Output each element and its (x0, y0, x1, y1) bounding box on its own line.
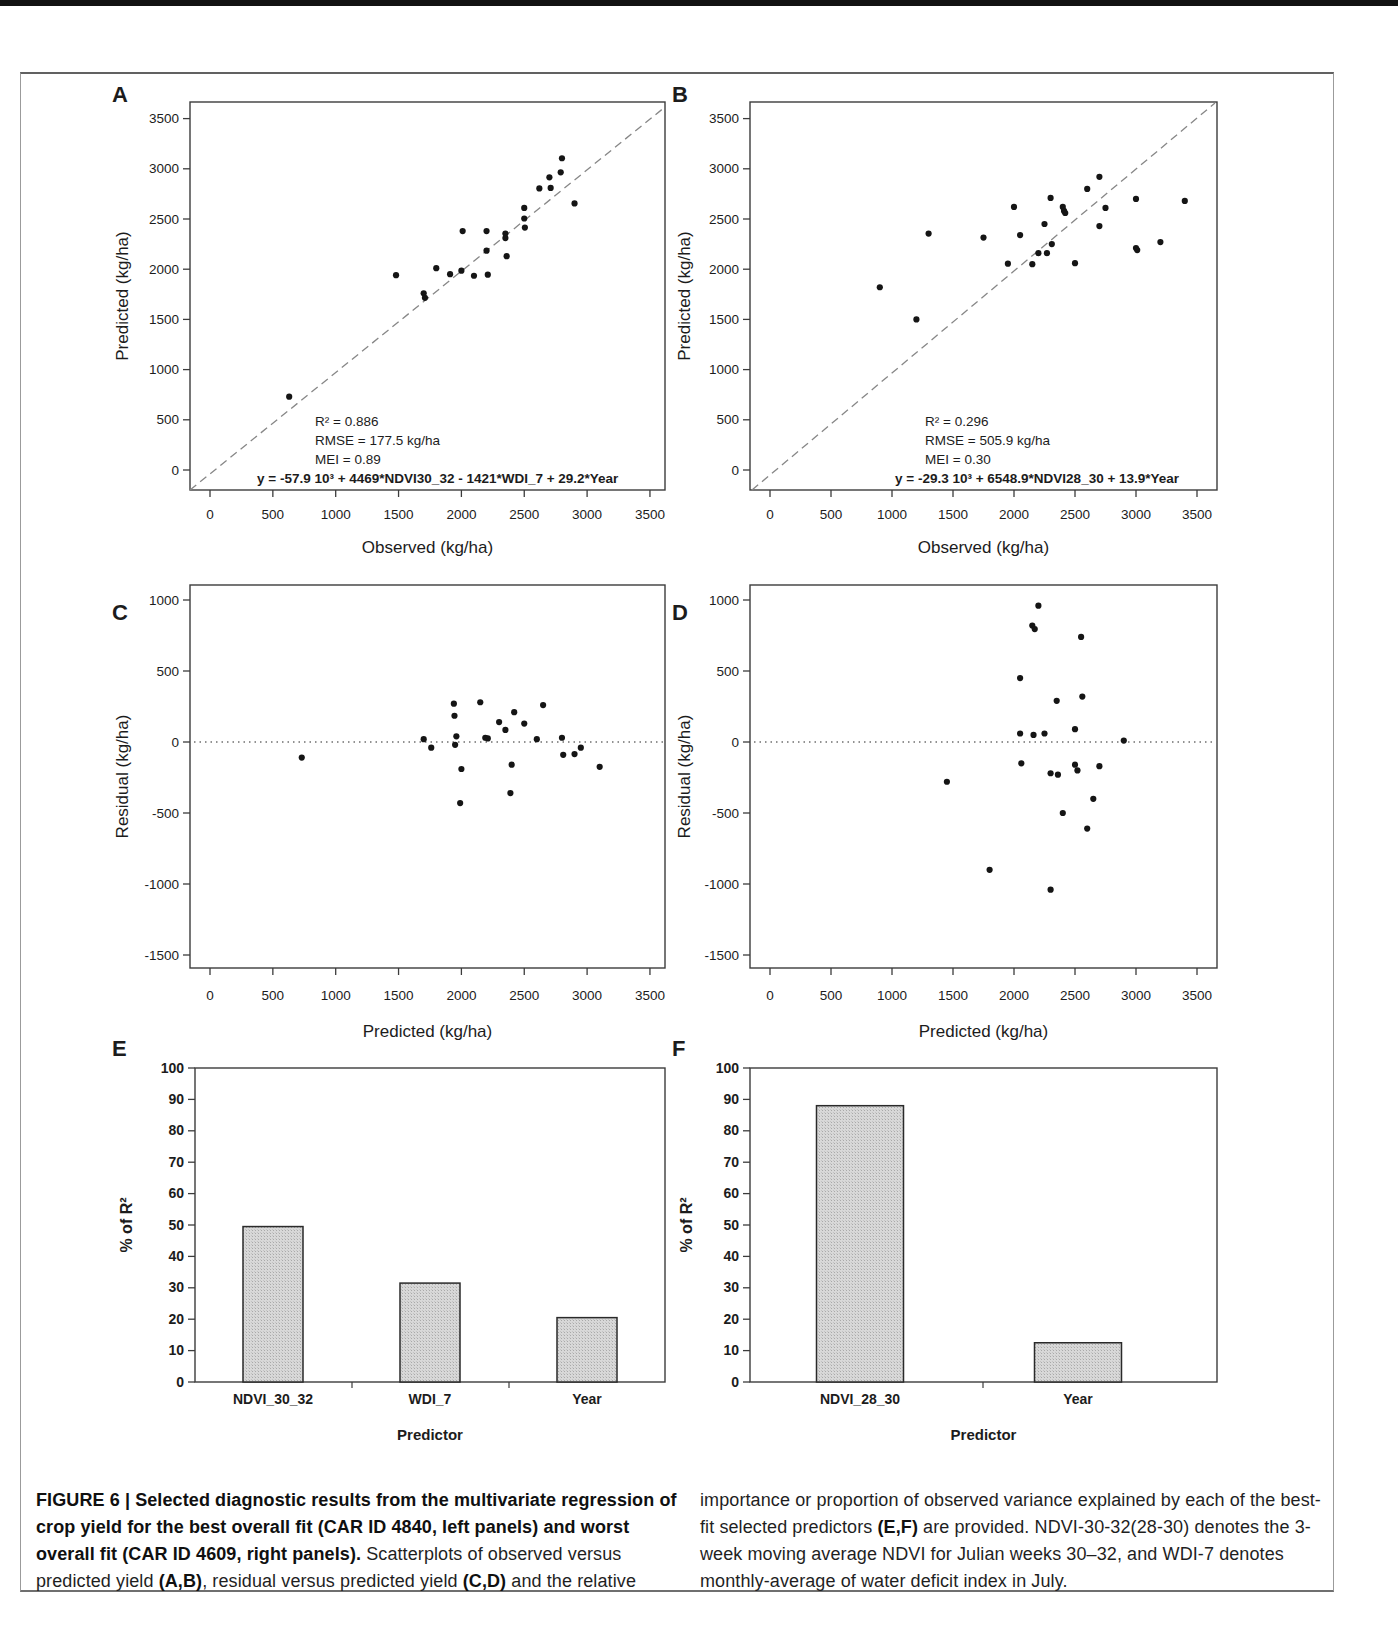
caption-bold-segment: (A,B) (159, 1571, 203, 1591)
data-point (1060, 810, 1066, 816)
data-point (1072, 726, 1078, 732)
y-axis-title: Residual (kg/ha) (675, 715, 694, 839)
x-tick-label: 3000 (572, 988, 602, 1003)
y-axis-title: % of R² (118, 1197, 135, 1252)
x-tick-label: 0 (206, 507, 214, 522)
data-point (457, 800, 463, 806)
caption-bold-segment: (E,F) (877, 1517, 918, 1537)
stat-annotation: R² = 0.296 (925, 414, 988, 429)
data-point (1030, 732, 1036, 738)
data-point (1096, 763, 1102, 769)
y-tick-label: 3000 (149, 161, 179, 176)
data-point (560, 752, 566, 758)
y-axis-title: Predicted (kg/ha) (113, 231, 132, 360)
x-tick-label: 1000 (877, 507, 907, 522)
data-point (496, 719, 502, 725)
x-axis-title: Predictor (397, 1426, 463, 1443)
data-point (1005, 261, 1011, 267)
x-tick-label: 0 (766, 988, 774, 1003)
data-point (1055, 772, 1061, 778)
data-point (1079, 693, 1085, 699)
data-point (1041, 730, 1047, 736)
data-point (1096, 174, 1102, 180)
data-point (1029, 261, 1035, 267)
data-point (1102, 205, 1108, 211)
data-point (1048, 887, 1054, 893)
y-tick-label: 0 (171, 463, 179, 478)
caption-bold-segment: (C,D) (463, 1571, 507, 1591)
data-point (1074, 767, 1080, 773)
data-point (571, 200, 577, 206)
data-point (393, 272, 399, 278)
data-point (1018, 760, 1024, 766)
regression-equation: y = -29.3 10³ + 6548.9*NDVI28_30 + 13.9*… (895, 471, 1180, 486)
data-point (485, 272, 491, 278)
y-tick-label: 80 (168, 1122, 184, 1138)
x-tick-label: 1500 (938, 988, 968, 1003)
data-point (286, 394, 292, 400)
data-point (536, 185, 542, 191)
y-tick-label: 0 (731, 735, 739, 750)
stat-annotation: RMSE = 505.9 kg/ha (925, 433, 1050, 448)
data-point (1084, 186, 1090, 192)
y-tick-label: 2000 (149, 262, 179, 277)
data-point (1017, 730, 1023, 736)
data-point (1072, 260, 1078, 266)
data-point (1084, 826, 1090, 832)
data-point (471, 273, 477, 279)
y-tick-label: 90 (723, 1091, 739, 1107)
x-tick-label: 3000 (572, 507, 602, 522)
x-tick-label: 2000 (446, 507, 476, 522)
data-point (534, 736, 540, 742)
data-point (433, 265, 439, 271)
data-point (1090, 796, 1096, 802)
x-tick-label: 500 (262, 988, 285, 1003)
x-tick-label: 2000 (446, 988, 476, 1003)
y-tick-label: 0 (731, 1374, 739, 1390)
y-tick-label: 80 (723, 1122, 739, 1138)
y-tick-label: 50 (168, 1217, 184, 1233)
regression-equation: y = -57.9 10³ + 4469*NDVI30_32 - 1421*WD… (257, 471, 619, 486)
y-tick-label: 70 (168, 1154, 184, 1170)
data-point (980, 234, 986, 240)
x-tick-label: 1000 (877, 988, 907, 1003)
data-point (521, 205, 527, 211)
data-point (521, 720, 527, 726)
data-point (521, 215, 527, 221)
y-tick-label: 3500 (709, 111, 739, 126)
data-point (452, 742, 458, 748)
data-point (422, 295, 428, 301)
x-tick-label: 1500 (938, 507, 968, 522)
bar (557, 1318, 617, 1382)
panel-letter: A (112, 82, 128, 107)
x-tick-label: 2500 (509, 988, 539, 1003)
data-point (1017, 675, 1023, 681)
panel-a-scatter-plot: A0500100015002000250030003500Predicted (… (112, 82, 665, 557)
y-tick-label: 500 (156, 412, 179, 427)
data-point (451, 713, 457, 719)
y-tick-label: 40 (723, 1248, 739, 1264)
data-point (1048, 770, 1054, 776)
x-tick-label: 1500 (384, 507, 414, 522)
x-tick-label: 3000 (1121, 507, 1151, 522)
data-point (1134, 247, 1140, 253)
y-tick-label: 0 (176, 1374, 184, 1390)
data-point (1035, 250, 1041, 256)
y-tick-label: 3000 (709, 161, 739, 176)
y-tick-label: 2000 (709, 262, 739, 277)
x-tick-label: 1500 (384, 988, 414, 1003)
panel-e-bar-chart: E0102030405060708090100% of R²NDVI_30_32… (112, 1036, 665, 1443)
category-label: NDVI_28_30 (820, 1391, 900, 1407)
y-tick-label: 500 (716, 412, 739, 427)
data-point (546, 174, 552, 180)
panel-d-scatter-plot: D10005000-500-1000-1500Residual (kg/ha)0… (672, 585, 1217, 1041)
panel-letter: D (672, 600, 688, 625)
data-point (460, 228, 466, 234)
plot-frame (750, 585, 1217, 968)
y-tick-label: 500 (716, 664, 739, 679)
stat-annotation: RMSE = 177.5 kg/ha (315, 433, 440, 448)
y-axis-title: Residual (kg/ha) (113, 715, 132, 839)
x-tick-label: 3500 (635, 507, 665, 522)
y-tick-label: 1500 (149, 312, 179, 327)
data-point (1133, 196, 1139, 202)
